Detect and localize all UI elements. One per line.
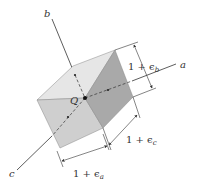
- origin-label: Q: [70, 95, 78, 106]
- axis-a-label: a: [180, 59, 186, 70]
- strain-cube-diagram: b a c Q 1 + ϵb 1 + ϵc 1 + ϵa: [0, 0, 198, 184]
- axis-b-dot: [74, 74, 76, 76]
- axis-b-label: b: [44, 8, 50, 19]
- origin-point: [83, 96, 87, 100]
- axis-c-label: c: [9, 168, 15, 179]
- axis-c-line: [17, 136, 52, 170]
- dimension-b-label: 1 + ϵb: [128, 61, 160, 74]
- dimension-c-label: 1 + ϵc: [126, 134, 157, 147]
- axis-c-dot: [67, 116, 69, 118]
- axis-a-dot: [107, 89, 109, 91]
- axis-b-line: [52, 19, 75, 75]
- dimension-a-label: 1 + ϵa: [73, 168, 104, 181]
